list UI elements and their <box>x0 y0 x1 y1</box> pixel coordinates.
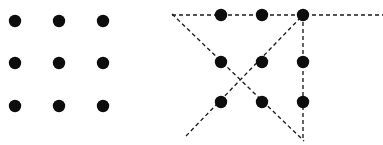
dot-r3c3 <box>97 100 109 112</box>
dot-r1c1 <box>9 15 21 27</box>
dot-r3c2 <box>53 100 65 112</box>
dot-r1c2 <box>53 15 65 27</box>
dot-r2c2 <box>256 56 268 68</box>
dot-r1c3 <box>297 9 309 21</box>
line-diagonal-descending <box>172 14 304 141</box>
dot-r2c1 <box>215 56 227 68</box>
dot-r3c1 <box>215 96 227 108</box>
nine-dots-figure <box>0 0 383 145</box>
figure-canvas <box>0 0 383 145</box>
line-diagonal-ascending <box>186 14 304 136</box>
dot-r2c1 <box>9 57 21 69</box>
nine-dot-grid-unsolved <box>9 15 109 112</box>
dot-r3c3 <box>297 96 309 108</box>
dot-r1c3 <box>97 15 109 27</box>
nine-dot-grid-solution <box>172 9 383 141</box>
dot-r2c3 <box>297 56 309 68</box>
dot-r2c2 <box>53 57 65 69</box>
dot-r1c2 <box>256 9 268 21</box>
dot-r3c1 <box>9 100 21 112</box>
dot-r2c3 <box>97 57 109 69</box>
dot-r1c1 <box>215 9 227 21</box>
dot-r3c2 <box>256 96 268 108</box>
